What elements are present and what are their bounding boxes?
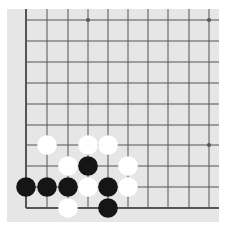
black-stone[interactable]	[58, 177, 78, 197]
white-stone[interactable]	[78, 135, 98, 155]
star-point-icon	[86, 18, 90, 22]
go-board-grid[interactable]	[0, 0, 229, 230]
white-stone[interactable]	[37, 135, 57, 155]
black-stone[interactable]	[98, 198, 118, 218]
star-point-icon	[207, 18, 211, 22]
white-stone[interactable]	[118, 177, 138, 197]
black-stone[interactable]	[37, 177, 57, 197]
black-stone[interactable]	[16, 177, 36, 197]
white-stone[interactable]	[78, 177, 98, 197]
white-stone[interactable]	[118, 156, 138, 176]
white-stone[interactable]	[98, 135, 118, 155]
star-point-icon	[207, 143, 211, 147]
white-stone[interactable]	[58, 198, 78, 218]
black-stone[interactable]	[78, 156, 98, 176]
black-stone[interactable]	[98, 177, 118, 197]
white-stone[interactable]	[58, 156, 78, 176]
